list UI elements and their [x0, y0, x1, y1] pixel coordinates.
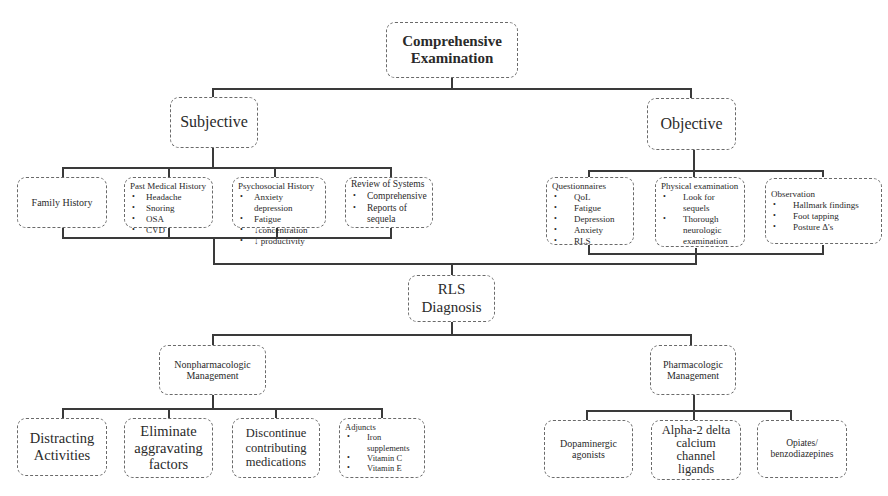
list-item: ↓concentration — [238, 225, 320, 236]
connector-root-down — [451, 78, 453, 88]
list-item: Comprehensive — [351, 191, 427, 203]
connector-alpha2 — [693, 410, 695, 420]
observation-title: Observation — [771, 189, 815, 200]
connector-adjuncts — [381, 408, 383, 418]
connector-diagnosis-down — [451, 322, 453, 334]
discontinue-contributing-medications-node: Discontinue contributing medications — [232, 418, 320, 478]
connector-subjective-bottom-bar — [62, 237, 392, 239]
connector-subjective-to-diagnosis — [213, 237, 215, 263]
adjuncts-title: Adjuncts — [345, 422, 376, 432]
connector-family — [62, 167, 64, 177]
list-item: Look for sequels — [661, 192, 739, 214]
connector-objective-down — [693, 150, 695, 170]
dopaminergic-label: Dopaminergic agonists — [557, 438, 620, 461]
list-item: Anxiety — [552, 225, 615, 236]
list-item: CVD — [130, 225, 181, 236]
connector-ros — [390, 167, 392, 177]
psychosocial-history-title: Psychosocial History — [238, 181, 314, 192]
connector-psych — [274, 167, 276, 177]
review-of-systems-list: Comprehensive Reports of sequela — [351, 191, 427, 226]
list-item: Thorough neurologic examination — [661, 214, 739, 247]
subjective-label: Subjective — [180, 113, 248, 131]
observation-node: Observation Hallmark findings Foot tappi… — [765, 178, 882, 244]
physical-examination-title: Physical examination — [661, 181, 738, 192]
list-item: Hallmark findings — [771, 200, 859, 211]
past-medical-history-title: Past Medical History — [130, 181, 206, 192]
connector-objective-to-diagnosis — [695, 248, 697, 263]
alpha2-delta-ligands-node: Alpha-2 delta calcium channel ligands — [651, 420, 741, 480]
list-item: Headache — [130, 192, 181, 203]
objective-label: Objective — [660, 115, 722, 133]
connector-to-nonpharm — [212, 334, 214, 345]
list-item: Anxiety depression — [238, 192, 320, 214]
connector-management-bar — [212, 334, 692, 336]
comprehensive-examination-node: Comprehensive Examination — [386, 22, 518, 78]
connector-pharm-bar — [586, 410, 792, 412]
list-item: Fatigue — [552, 203, 615, 214]
adjuncts-node: Adjuncts Iron supplements Vitamin C Vita… — [339, 418, 425, 478]
discontinue-contributing-label: Discontinue contributing medications — [236, 426, 316, 469]
pharmacologic-management-node: Pharmacologic Management — [650, 345, 736, 395]
connector-nonpharm-bar — [62, 408, 383, 410]
connector-objective-bar — [588, 170, 824, 172]
connector-family-bottom — [62, 228, 64, 237]
opiates-label: Opiates/ benzodiazepines — [766, 438, 838, 460]
rls-diagnosis-node: RLS Diagnosis — [408, 275, 495, 322]
observation-list: Hallmark findings Foot tapping Posture Δ… — [771, 200, 859, 233]
family-history-label: Family History — [32, 197, 93, 209]
connector-observation-bottom — [822, 245, 824, 253]
connector-observation — [822, 170, 824, 177]
connector-top-bar — [212, 88, 692, 90]
list-item: OSA — [130, 214, 181, 225]
list-item: QoL — [552, 192, 615, 203]
list-item: Reports of sequela — [351, 203, 427, 226]
eliminate-aggravating-label: Eliminate aggravating factors — [128, 423, 209, 473]
physical-examination-list: Look for sequels Thorough neurologic exa… — [661, 192, 739, 247]
list-item: Foot tapping — [771, 211, 859, 222]
root-label-line2: Examination — [411, 50, 494, 67]
alpha2-label: Alpha-2 delta calcium channel ligands — [658, 424, 734, 477]
distracting-activities-node: Distracting Activities — [17, 418, 107, 476]
list-item: Vitamin E — [345, 463, 419, 473]
nonpharm-label-line2: Management — [186, 370, 238, 382]
pharm-label-line1: Pharmacologic — [663, 359, 723, 371]
connector-to-objective — [690, 88, 692, 98]
nonpharm-label-line1: Nonpharmacologic — [174, 359, 251, 371]
subjective-node: Subjective — [170, 97, 258, 148]
eliminate-aggravating-factors-node: Eliminate aggravating factors — [124, 418, 213, 478]
connector-objective-bottom-bar — [588, 253, 824, 255]
physical-examination-node: Physical examination Look for sequels Th… — [655, 177, 745, 247]
review-of-systems-node: Review of Systems Comprehensive Reports … — [345, 177, 433, 228]
connector-physical — [693, 170, 695, 177]
pharm-label-line2: Management — [667, 370, 719, 382]
connector-to-diagnosis — [451, 263, 453, 275]
questionnaires-title: Questionnaires — [552, 181, 606, 192]
root-label-line1: Comprehensive — [402, 33, 502, 50]
connector-pharm-down — [693, 395, 695, 410]
review-of-systems-title: Review of Systems — [351, 179, 424, 191]
connector-questionnaires — [588, 170, 590, 177]
connector-distracting — [62, 408, 64, 418]
questionnaires-list: QoL Fatigue Depression Anxiety RLS — [552, 192, 615, 247]
psychosocial-history-node: Psychosocial History Anxiety depression … — [232, 177, 326, 228]
list-item: Iron supplements — [345, 432, 419, 453]
diagnosis-label-line2: Diagnosis — [422, 299, 482, 316]
connector-to-pharm — [690, 334, 692, 345]
connector-pmh — [168, 167, 170, 177]
list-item: Fatigue — [238, 214, 320, 225]
connector-discontinue — [275, 408, 277, 418]
connector-subjective-down — [212, 148, 214, 167]
past-medical-history-list: Headache Snoring OSA CVD — [130, 192, 181, 236]
list-item: Vitamin C — [345, 453, 419, 463]
nonpharmacologic-management-node: Nonpharmacologic Management — [159, 345, 266, 395]
list-item: Posture Δ's — [771, 222, 859, 233]
family-history-node: Family History — [17, 177, 107, 228]
connector-nonpharm-down — [212, 395, 214, 408]
psychosocial-history-list: Anxiety depression Fatigue ↓concentratio… — [238, 192, 320, 247]
dopaminergic-agonists-node: Dopaminergic agonists — [544, 420, 633, 478]
opiates-benzodiazepines-node: Opiates/ benzodiazepines — [757, 420, 847, 478]
past-medical-history-node: Past Medical History Headache Snoring OS… — [124, 177, 213, 228]
connector-subjective-bar — [62, 167, 392, 169]
connector-diagnosis-bar — [213, 263, 697, 265]
questionnaires-node: Questionnaires QoL Fatigue Depression An… — [546, 177, 634, 245]
